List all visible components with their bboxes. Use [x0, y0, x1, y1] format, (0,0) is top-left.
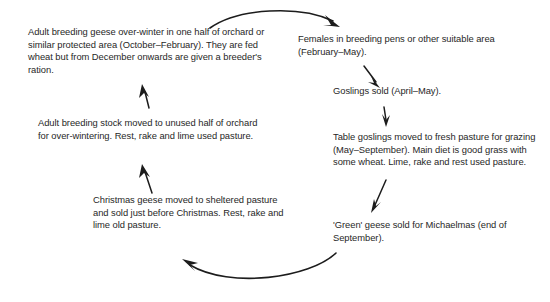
arrow-goslings-to-table — [382, 107, 390, 127]
node-breeding-stock-moved: Adult breeding stock moved to unused hal… — [38, 117, 263, 142]
node-overwinter: Adult breeding geese over-winter in one … — [28, 26, 278, 76]
arrow-green-to-christmas — [182, 253, 336, 278]
diagram-canvas: Adult breeding geese over-winter in one … — [0, 0, 550, 302]
node-table-goslings: Table goslings moved to fresh pasture fo… — [333, 131, 545, 169]
arrow-stock-moved-to-overwinter — [139, 84, 149, 108]
node-females-breeding-pens: Females in breeding pens or other suitab… — [298, 33, 538, 58]
node-goslings-sold: Goslings sold (April–May). — [333, 85, 538, 98]
node-green-geese-sold: 'Green' geese sold for Michaelmas (end o… — [333, 219, 538, 244]
node-christmas-geese: Christmas geese moved to sheltered pastu… — [93, 194, 293, 232]
arrow-table-to-green — [371, 180, 386, 213]
arrow-christmas-to-stock-moved — [139, 164, 152, 193]
